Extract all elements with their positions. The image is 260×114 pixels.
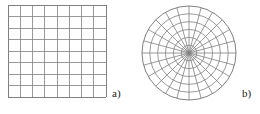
panel-b-label: b) — [242, 88, 251, 99]
figure-container: a) b) — [0, 0, 260, 114]
panel-polar-mesh: b) — [130, 0, 260, 114]
cartesian-mesh-diagram — [0, 0, 130, 114]
polar-mesh-diagram — [130, 0, 260, 114]
panel-a-label: a) — [112, 88, 121, 99]
panel-cartesian-mesh: a) — [0, 0, 130, 114]
